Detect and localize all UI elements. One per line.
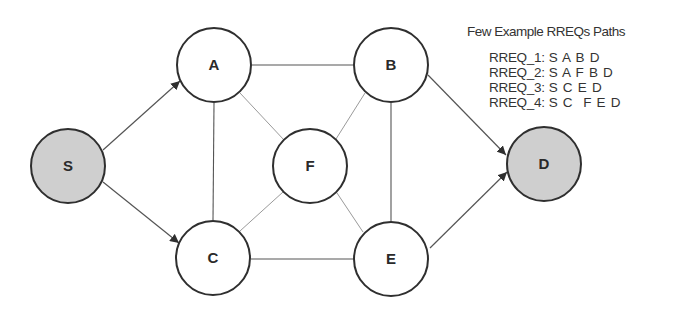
node-c: C: [176, 221, 250, 295]
node-f: F: [273, 129, 347, 203]
legend-list: RREQ_1:S A B D RREQ_2:S A F B D RREQ_3:S…: [489, 50, 625, 110]
legend-item-path: S C E D: [549, 80, 602, 95]
node-a-label: A: [209, 56, 220, 73]
edge-a-c: [213, 103, 214, 220]
node-d-label: D: [539, 155, 550, 172]
node-e-label: E: [386, 250, 396, 267]
legend-item-rreq-3: RREQ_3:S C E D: [489, 80, 625, 95]
legend-item-path: S A F B D: [549, 65, 613, 80]
edge-b-f: [336, 93, 365, 139]
node-c-label: C: [208, 249, 219, 266]
legend-item-label: RREQ_1:: [489, 50, 545, 65]
rreq-paths-legend: Few Example RREQs Paths RREQ_1:S A B D R…: [467, 24, 625, 110]
legend-item-path: S A B D: [549, 50, 599, 65]
node-f-label: F: [305, 157, 314, 174]
node-e: E: [354, 222, 428, 296]
legend-item-rreq-2: RREQ_2:S A F B D: [489, 65, 625, 80]
legend-item-label: RREQ_3:: [489, 80, 545, 95]
edge-e-f: [337, 193, 363, 232]
edge-c-f: [240, 192, 283, 231]
node-b-label: B: [386, 56, 397, 73]
legend-item-label: RREQ_2:: [489, 65, 545, 80]
edge-s-to-c: [103, 182, 179, 243]
node-s: S: [31, 129, 105, 203]
legend-item-label: RREQ_4:: [489, 95, 545, 110]
node-s-label: S: [63, 157, 73, 174]
edge-s-to-a: [103, 81, 180, 150]
legend-item-rreq-4: RREQ_4:S C F E D: [489, 95, 625, 110]
edge-e-to-d: [430, 172, 507, 248]
node-b: B: [354, 28, 428, 102]
node-d: D: [507, 127, 581, 201]
edge-a-f: [240, 93, 284, 140]
legend-item-rreq-1: RREQ_1:S A B D: [489, 50, 625, 65]
legend-item-path: S C F E D: [549, 95, 621, 110]
node-a: A: [177, 28, 251, 102]
legend-title: Few Example RREQs Paths: [467, 24, 625, 40]
